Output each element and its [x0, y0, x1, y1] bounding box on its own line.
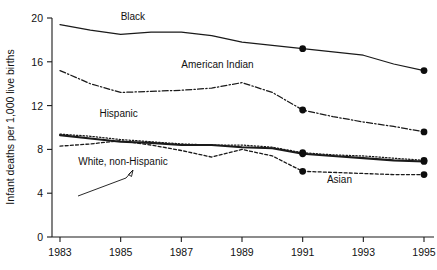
y-tick-label: 12 [31, 100, 43, 112]
chart-plot-area: 048121620 1983198519871989199119931995 B… [0, 0, 437, 270]
x-tick-label: 1991 [291, 246, 315, 258]
series-labels: BlackAmerican IndianHispanicWhite, non-H… [78, 11, 352, 185]
data-point-marker [421, 67, 428, 74]
data-point-marker [299, 107, 306, 114]
white-non-hispanic-leader [78, 170, 133, 196]
x-tick-label: 1983 [48, 246, 72, 258]
data-point-marker [421, 128, 428, 135]
leader-lines [78, 170, 133, 196]
data-point-marker [299, 150, 306, 157]
data-point-marker [421, 171, 428, 178]
series-label: Asian [327, 174, 352, 185]
series-line [60, 71, 424, 132]
y-axis-ticks: 048121620 [31, 12, 52, 243]
y-axis-title: Infant deaths per 1,000 live births [4, 49, 16, 204]
series-label: White, non-Hispanic [78, 156, 167, 167]
y-tick-label: 4 [37, 187, 43, 199]
infant-mortality-chart: 048121620 1983198519871989199119931995 B… [0, 0, 437, 270]
series-label: Black [121, 11, 146, 22]
series-label: Hispanic [99, 108, 137, 119]
data-point-marker [421, 158, 428, 165]
series-label: American Indian [181, 59, 253, 70]
y-tick-label: 0 [37, 231, 43, 243]
y-tick-label: 8 [37, 143, 43, 155]
y-tick-label: 20 [31, 12, 43, 24]
x-axis-ticks: 1983198519871989199119931995 [48, 237, 436, 258]
data-point-marker [299, 45, 306, 52]
y-tick-label: 16 [31, 56, 43, 68]
x-tick-label: 1995 [412, 246, 436, 258]
x-tick-label: 1987 [170, 246, 194, 258]
data-point-marker [299, 168, 306, 175]
x-tick-label: 1993 [352, 246, 376, 258]
series-lines [60, 25, 424, 175]
x-tick-label: 1989 [230, 246, 254, 258]
x-tick-label: 1985 [109, 246, 133, 258]
